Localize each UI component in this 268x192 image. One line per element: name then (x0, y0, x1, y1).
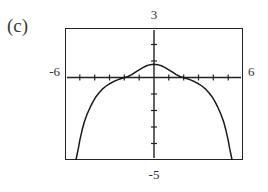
axis-label-top: 3 (151, 8, 158, 21)
plot-canvas (65, 28, 243, 160)
calculator-viewport: 3 -5 -6 6 (65, 28, 243, 160)
axis-label-bottom: -5 (149, 168, 160, 181)
calculator-figure: (c) (0, 0, 268, 192)
part-label: (c) (7, 16, 28, 35)
axis-label-left: -6 (49, 65, 60, 78)
axis-label-right: 6 (248, 65, 255, 78)
